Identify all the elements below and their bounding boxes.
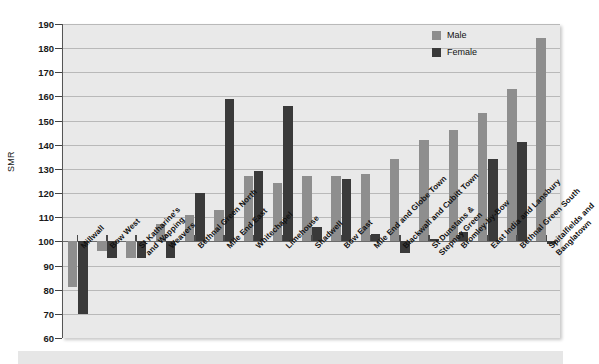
category-tick-9 [341,235,343,241]
y-tick-mark-130 [55,169,62,170]
y-tick-label-170: 170 [28,67,54,78]
y-tick-label-120: 120 [28,188,54,199]
category-tick-11 [399,235,401,241]
y-tick-label-60: 60 [28,333,54,344]
bar-female-0 [78,241,88,313]
gridline-180 [63,48,560,49]
gridline-170 [63,72,560,73]
y-tick-mark-80 [55,290,62,291]
category-tick-8 [311,235,313,241]
y-axis-tick-labels: 19018017016015014013012011010090807060 [28,0,54,364]
legend-label-female: Female [447,47,477,57]
y-axis-title: SMR [6,151,16,172]
bar-male-0 [68,241,78,287]
bar-male-16 [536,38,546,241]
category-tick-16 [546,235,548,241]
category-tick-1 [106,235,108,241]
bar-female-9 [342,179,352,242]
y-tick-label-190: 190 [28,19,54,30]
y-tick-mark-70 [55,314,62,315]
category-tick-4 [194,235,196,241]
category-tick-14 [487,235,489,241]
y-tick-label-140: 140 [28,139,54,150]
footer-strip [18,351,563,364]
legend-label-male: Male [447,30,467,40]
y-tick-label-130: 130 [28,163,54,174]
y-tick-mark-90 [55,266,62,267]
bar-male-2 [126,241,136,258]
plot-area [62,24,560,338]
y-tick-mark-120 [55,193,62,194]
category-tick-10 [370,235,372,241]
chart-legend: Male Female [432,30,477,64]
y-tick-mark-180 [55,48,62,49]
y-tick-label-180: 180 [28,43,54,54]
category-tick-0 [77,235,79,241]
y-tick-mark-190 [55,24,62,25]
category-tick-2 [135,235,137,241]
category-tick-7 [282,235,284,241]
gridline-70 [63,314,560,315]
category-tick-12 [428,235,430,241]
y-tick-label-90: 90 [28,260,54,271]
gridline-160 [63,96,560,97]
legend-swatch-male-icon [432,31,441,40]
y-tick-mark-100 [55,241,62,242]
y-tick-mark-170 [55,72,62,73]
y-tick-mark-160 [55,96,62,97]
y-tick-mark-60 [55,338,62,339]
bar-female-4 [195,193,205,241]
y-tick-label-70: 70 [28,308,54,319]
category-tick-15 [516,235,518,241]
y-tick-label-80: 80 [28,284,54,295]
y-tick-mark-150 [55,121,62,122]
legend-swatch-female-icon [432,48,441,57]
category-tick-6 [253,235,255,241]
gridline-90 [63,266,560,267]
y-tick-label-160: 160 [28,91,54,102]
gridline-80 [63,290,560,291]
y-tick-mark-140 [55,145,62,146]
legend-item-female: Female [432,47,477,57]
bar-male-1 [97,241,107,251]
bar-female-14 [488,159,498,241]
y-tick-label-110: 110 [28,212,54,223]
y-tick-mark-110 [55,217,62,218]
gridline-190 [63,24,560,25]
legend-item-male: Male [432,30,477,40]
y-tick-label-100: 100 [28,236,54,247]
y-tick-label-150: 150 [28,115,54,126]
category-tick-5 [223,235,225,241]
